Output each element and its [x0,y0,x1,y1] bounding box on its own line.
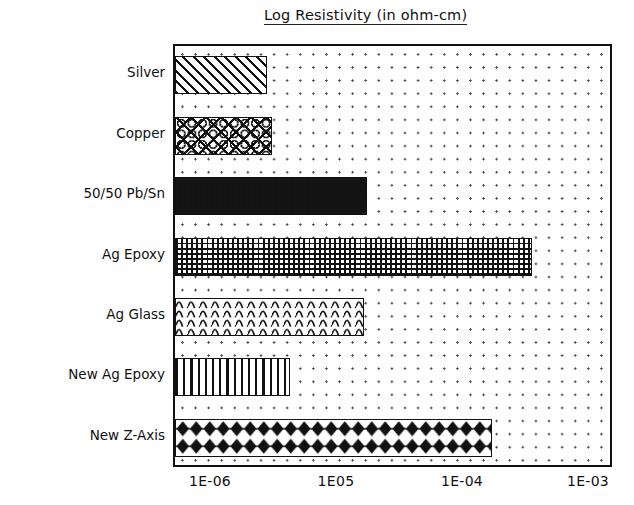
category-label-text: Copper [116,125,165,141]
x-tick-label-0: 1E-06 [189,473,231,489]
category-label-text: New Z-Axis [90,427,165,443]
category-label-text: Ag Glass [106,306,165,322]
category-label-new-z-axis: New Z-Axis [90,427,255,443]
chart-canvas: Log Resistivity (in ohm-cm) SilverCopper… [0,0,634,505]
category-label-silver: Silver [127,64,292,80]
category-label-ag-epoxy: Ag Epoxy [102,246,267,262]
category-label-text: Ag Epoxy [102,246,165,262]
category-label-new-ag-epoxy: New Ag Epoxy [68,366,233,382]
category-label-copper: Copper [116,125,281,141]
category-label-text: Silver [127,64,165,80]
category-label-text: New Ag Epoxy [68,366,165,382]
x-tick-label-3: 1E-03 [567,473,609,489]
x-tick-label-1: 1E05 [318,473,355,489]
x-tick-label-2: 1E-04 [441,473,483,489]
category-label-text: 50/50 Pb/Sn [83,185,165,201]
chart-title: Log Resistivity (in ohm-cm) [264,7,467,25]
category-label-ag-glass: Ag Glass [106,306,271,322]
category-label-50-50-pb-sn: 50/50 Pb/Sn [83,185,248,201]
